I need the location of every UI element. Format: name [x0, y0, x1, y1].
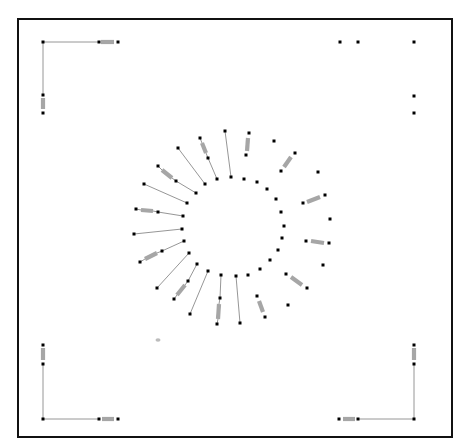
node-dot [264, 316, 267, 319]
wire [134, 229, 182, 234]
resistor-icon [291, 277, 302, 285]
node-dot [259, 268, 262, 271]
spoke-resistors [141, 138, 324, 319]
node-dot [196, 263, 199, 266]
node-dot [219, 297, 222, 300]
node-dot [157, 165, 160, 168]
node-dot [183, 240, 186, 243]
node-dot [281, 237, 284, 240]
node-dot [324, 194, 327, 197]
node-dot [182, 215, 185, 218]
corner-circuits [42, 41, 416, 421]
node-dot [269, 259, 272, 262]
node-dot [156, 287, 159, 290]
resistor-icon [145, 253, 157, 259]
wire [208, 158, 217, 179]
corner-top-left [42, 41, 120, 115]
node-dot [413, 41, 416, 44]
corner-top-right [339, 41, 416, 115]
spoke-wires [134, 131, 240, 324]
node-dot [204, 183, 207, 186]
node-dot [42, 418, 45, 421]
resistor-icon [162, 170, 172, 178]
node-dot [133, 233, 136, 236]
wire [188, 264, 197, 281]
wire [157, 253, 189, 288]
resistor-icon [177, 285, 185, 295]
wire [190, 271, 208, 314]
node-dot [157, 211, 160, 214]
artifacts [156, 338, 161, 342]
node-dot [42, 363, 45, 366]
node-dot [207, 270, 210, 273]
node-dot [305, 240, 308, 243]
node-dot [239, 322, 242, 325]
node-dot [42, 112, 45, 115]
node-dot [199, 137, 202, 140]
node-dot [181, 228, 184, 231]
node-dot [143, 183, 146, 186]
resistor-icon [307, 197, 320, 202]
resistor-icon [259, 301, 263, 312]
node-dot [175, 180, 178, 183]
node-dot [216, 178, 219, 181]
node-dot [117, 418, 120, 421]
node-dot [339, 41, 342, 44]
node-dot [187, 280, 190, 283]
wire [144, 184, 187, 203]
node-dot [248, 132, 251, 135]
node-dot [189, 313, 192, 316]
node-dot [245, 154, 248, 157]
node-dot [357, 41, 360, 44]
node-dot [329, 218, 332, 221]
corner-bottom-right [338, 344, 416, 421]
node-dot [177, 147, 180, 150]
node-dot [306, 287, 309, 290]
node-dot [188, 252, 191, 255]
node-dot [413, 95, 416, 98]
node-dot [207, 157, 210, 160]
node-dot [273, 140, 276, 143]
node-dot [173, 298, 176, 301]
node-dot [357, 418, 360, 421]
node-dot [294, 152, 297, 155]
node-dot [413, 418, 416, 421]
resistor-icon [218, 304, 219, 319]
resistor-icon [311, 241, 324, 243]
node-dot [275, 198, 278, 201]
node-dot [317, 171, 320, 174]
node-dot [413, 363, 416, 366]
node-dot [256, 181, 259, 184]
node-dot [42, 41, 45, 44]
wire [176, 181, 196, 193]
node-dot [135, 208, 138, 211]
node-dot [266, 188, 269, 191]
circuit-diagram-canvas [0, 0, 464, 447]
node-dot [195, 192, 198, 195]
node-dot [277, 249, 280, 252]
node-dot [413, 112, 416, 115]
node-dot [338, 418, 341, 421]
resistor-icon [141, 210, 153, 211]
wire [178, 148, 205, 184]
wire [162, 241, 184, 251]
node-dot [117, 41, 120, 44]
node-dot [139, 261, 142, 264]
resistor-icon [247, 138, 248, 151]
wire [236, 276, 240, 323]
node-dot [283, 225, 286, 228]
node-dot [235, 275, 238, 278]
node-dot [256, 295, 259, 298]
node-dot [413, 344, 416, 347]
wire [158, 212, 183, 216]
wire [225, 131, 231, 177]
node-dot [98, 418, 101, 421]
node-dot [287, 304, 290, 307]
node-dot [243, 178, 246, 181]
ring-nodes [133, 130, 332, 326]
node-dot [216, 323, 219, 326]
node-dot [230, 176, 233, 179]
node-dot [280, 211, 283, 214]
node-dot [220, 274, 223, 277]
node-dot [42, 94, 45, 97]
